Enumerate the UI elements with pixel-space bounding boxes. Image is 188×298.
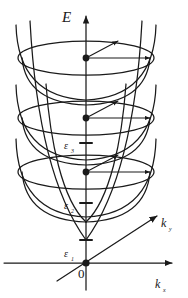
origin-label: 0 — [78, 266, 85, 281]
figure-canvas: E k x k y 0 ε 3 ε 2 ε 1 — [0, 0, 188, 298]
state-dot-band-1 — [83, 169, 90, 176]
energy-axis-label: E — [61, 9, 71, 25]
ky-axis-line — [57, 216, 157, 281]
level-3-label-subscript: 3 — [70, 148, 74, 154]
k-vector-diagonal-band-3 — [86, 41, 118, 58]
subband-dispersion-figure: E k x k y 0 ε 3 ε 2 ε 1 — [0, 0, 188, 298]
state-dot-band-2 — [83, 115, 90, 122]
level-3-label: ε — [64, 140, 68, 151]
ky-axis-label: k — [161, 216, 167, 230]
level-1-label-subscript: 1 — [71, 256, 74, 262]
ky-axis-label-subscript: y — [168, 226, 172, 232]
level-2-label: ε — [64, 200, 68, 211]
level-2-label-subscript: 2 — [71, 208, 74, 214]
kx-axis-label-subscript: x — [162, 287, 166, 293]
kx-axis-label: k — [155, 277, 161, 291]
level-1-label: ε — [64, 248, 68, 259]
state-dot-band-3 — [83, 55, 90, 62]
